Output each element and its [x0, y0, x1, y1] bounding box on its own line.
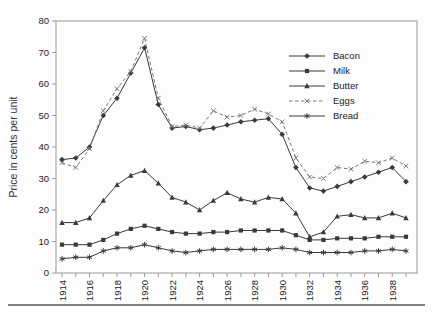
legend-label: Bread	[333, 110, 358, 121]
y-tick-label: 40	[38, 141, 49, 152]
square-marker	[321, 238, 325, 242]
price-chart: 0102030405060708019141916191819201922192…	[0, 0, 433, 319]
square-marker	[363, 236, 367, 240]
square-marker	[170, 230, 174, 234]
legend-item-bacon: Bacon	[289, 50, 360, 61]
x-marker	[294, 156, 299, 161]
square-marker	[390, 235, 394, 239]
x-marker	[307, 175, 312, 180]
x-marker	[349, 167, 354, 172]
x-marker	[73, 165, 78, 170]
price-figure: 0102030405060708019141916191819201922192…	[0, 0, 433, 319]
y-tick-label: 10	[38, 236, 49, 247]
series-butter	[59, 168, 408, 239]
triangle-marker	[266, 195, 271, 200]
square-marker	[60, 243, 64, 247]
triangle-marker	[390, 210, 395, 215]
x-marker	[115, 86, 120, 91]
square-marker	[280, 228, 284, 232]
y-axis-title: Price in cents per unit	[7, 96, 19, 197]
y-tick-label: 70	[38, 47, 49, 58]
square-marker	[156, 227, 160, 231]
x-marker	[280, 120, 285, 125]
square-marker	[294, 233, 298, 237]
x-marker	[321, 176, 326, 181]
diamond-marker	[252, 117, 258, 123]
y-tick-label: 50	[38, 110, 49, 121]
triangle-marker	[142, 168, 147, 173]
series-line	[62, 245, 406, 259]
legend-label: Milk	[333, 65, 350, 76]
diamond-marker	[321, 188, 327, 194]
legend-item-bread: Bread	[289, 110, 358, 121]
square-marker	[129, 227, 133, 231]
x-tick-label: 1926	[222, 280, 233, 301]
legend-label: Butter	[333, 80, 358, 91]
y-tick-label: 20	[38, 204, 49, 215]
y-tick-label: 80	[38, 15, 49, 26]
diamond-marker	[59, 157, 65, 163]
square-marker	[74, 243, 78, 247]
diamond-marker	[211, 125, 217, 131]
legend-item-milk: Milk	[289, 65, 350, 76]
x-tick-label: 1928	[249, 280, 260, 301]
plot-frame	[56, 21, 417, 273]
y-tick-label: 30	[38, 173, 49, 184]
x-tick-label: 1932	[304, 280, 315, 301]
x-tick-label: 1930	[277, 280, 288, 301]
diamond-marker	[362, 174, 368, 180]
square-marker	[305, 69, 309, 73]
square-marker	[198, 232, 202, 236]
square-marker	[253, 228, 257, 232]
diamond-marker	[348, 179, 354, 185]
square-marker	[142, 224, 146, 228]
x-tick-label: 1914	[57, 280, 68, 301]
legend-label: Eggs	[333, 95, 355, 106]
diamond-marker	[304, 53, 310, 59]
triangle-marker	[114, 182, 119, 187]
series-line	[62, 226, 406, 245]
square-marker	[211, 230, 215, 234]
x-marker	[252, 107, 257, 112]
square-marker	[115, 232, 119, 236]
x-tick-label: 1934	[332, 280, 343, 301]
x-tick-label: 1922	[167, 280, 178, 301]
diamond-marker	[334, 184, 340, 190]
x-marker	[225, 115, 230, 120]
x-marker	[101, 108, 106, 113]
legend-item-butter: Butter	[289, 80, 358, 91]
diamond-marker	[238, 119, 244, 125]
x-marker	[211, 108, 216, 113]
diamond-marker	[307, 185, 313, 191]
diamond-marker	[376, 169, 382, 175]
x-tick-label: 1936	[359, 280, 370, 301]
x-tick-label: 1920	[139, 280, 150, 301]
diamond-marker	[224, 122, 230, 128]
x-tick-label: 1938	[387, 280, 398, 301]
square-marker	[266, 228, 270, 232]
triangle-marker	[197, 207, 202, 212]
diamond-marker	[293, 165, 299, 171]
x-tick-label: 1918	[112, 280, 123, 301]
square-marker	[184, 232, 188, 236]
square-marker	[404, 235, 408, 239]
square-marker	[376, 235, 380, 239]
series-milk	[60, 224, 408, 247]
y-tick-label: 60	[38, 78, 49, 89]
legend-item-eggs: Eggs	[289, 95, 355, 106]
x-axis: 1914191619181920192219241926192819301932…	[57, 273, 407, 301]
x-marker	[266, 112, 271, 117]
square-marker	[239, 228, 243, 232]
square-marker	[101, 238, 105, 242]
legend: BaconMilkButterEggsBread	[289, 50, 360, 121]
square-marker	[335, 236, 339, 240]
square-marker	[225, 230, 229, 234]
y-tick-label: 0	[44, 267, 49, 278]
x-tick-label: 1916	[84, 280, 95, 301]
x-marker	[404, 164, 409, 169]
y-axis: 01020304050607080	[38, 15, 56, 278]
triangle-marker	[211, 198, 216, 203]
triangle-marker	[224, 190, 229, 195]
square-marker	[349, 236, 353, 240]
legend-label: Bacon	[333, 50, 360, 61]
